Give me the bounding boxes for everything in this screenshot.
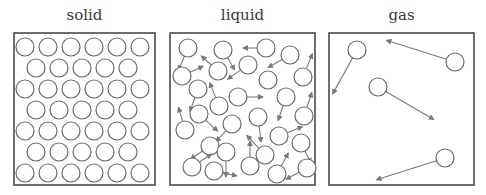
particle-circle xyxy=(85,164,103,182)
particle-circle xyxy=(108,80,126,98)
particle-circle xyxy=(62,80,80,98)
particle-circle xyxy=(27,143,45,161)
particle-circle xyxy=(16,164,34,182)
motion-arrow-icon xyxy=(286,172,299,179)
particle-circle xyxy=(209,62,227,80)
motion-arrow-icon xyxy=(247,135,259,148)
motion-arrow-icon xyxy=(386,40,446,59)
particle-circle xyxy=(348,41,366,59)
particle-circle xyxy=(210,97,228,115)
particle-circle xyxy=(108,164,126,182)
particle-circle xyxy=(183,158,201,176)
particle-circle xyxy=(50,101,68,119)
motion-arrow-icon xyxy=(278,106,283,121)
particle-circle xyxy=(257,39,275,57)
particle-circle xyxy=(176,121,194,139)
motion-arrow-icon xyxy=(287,127,302,133)
particle-circle xyxy=(73,59,91,77)
solid-panel xyxy=(14,33,155,185)
particle-circle xyxy=(131,122,149,140)
motion-arrow-icon xyxy=(306,54,312,69)
particle-circle xyxy=(249,108,267,126)
particle-circle xyxy=(201,137,219,155)
particle-circle xyxy=(436,149,454,167)
particle-circle xyxy=(229,88,247,106)
particle-circle xyxy=(85,80,103,98)
particle-circle xyxy=(39,164,57,182)
motion-arrow-icon xyxy=(268,59,282,67)
particle-circle xyxy=(27,101,45,119)
particle-circle xyxy=(39,80,57,98)
particle-circle xyxy=(27,59,45,77)
particle-circle xyxy=(50,59,68,77)
particle-circle xyxy=(16,38,34,56)
particle-circle xyxy=(108,122,126,140)
particle-circle xyxy=(446,53,464,71)
motion-arrow-icon xyxy=(223,173,237,176)
particle-circle xyxy=(119,59,137,77)
particle-circle xyxy=(108,38,126,56)
motion-arrow-icon xyxy=(307,92,312,107)
motion-arrow-icon xyxy=(376,161,436,180)
particle-circle xyxy=(85,38,103,56)
particle-circle xyxy=(73,143,91,161)
motion-arrow-icon xyxy=(206,120,218,131)
liquid-panel xyxy=(170,33,316,185)
particle-circle xyxy=(214,41,232,59)
particle-circle xyxy=(96,143,114,161)
particle-circle xyxy=(16,122,34,140)
gas-panel xyxy=(329,33,474,185)
particle-circle xyxy=(119,143,137,161)
particle-circle xyxy=(39,122,57,140)
states-of-matter-diagram xyxy=(0,0,486,195)
motion-arrow-icon xyxy=(228,70,241,79)
motion-arrow-icon xyxy=(190,66,203,72)
motion-arrow-icon xyxy=(386,92,434,120)
motion-arrow-icon xyxy=(259,126,261,142)
particle-circle xyxy=(62,164,80,182)
particle-circle xyxy=(241,157,259,175)
particle-circle xyxy=(268,165,286,183)
particle-circle xyxy=(223,115,241,133)
particle-circle xyxy=(292,134,310,152)
motion-arrow-icon xyxy=(281,153,288,166)
particle-circle xyxy=(131,164,149,182)
particle-circle xyxy=(119,101,137,119)
particle-circle xyxy=(294,68,312,86)
motion-arrow-icon xyxy=(179,107,183,121)
particle-circle xyxy=(131,80,149,98)
particle-circle xyxy=(259,71,277,89)
particle-circle xyxy=(190,105,208,123)
particle-circle xyxy=(50,143,68,161)
particle-circle xyxy=(62,122,80,140)
particle-circle xyxy=(85,122,103,140)
particle-circle xyxy=(256,146,274,164)
particle-circle xyxy=(96,59,114,77)
particle-circle xyxy=(217,143,235,161)
particle-circle xyxy=(96,101,114,119)
particle-circle xyxy=(205,162,223,180)
particle-circle xyxy=(131,38,149,56)
particle-circle xyxy=(239,56,257,74)
particle-circle xyxy=(73,101,91,119)
motion-arrow-icon xyxy=(228,58,235,70)
particle-circle xyxy=(39,38,57,56)
particle-circle xyxy=(189,80,207,98)
motion-arrow-icon xyxy=(333,58,353,94)
particle-circle xyxy=(281,46,299,64)
motion-arrow-icon xyxy=(201,56,211,65)
motion-arrow-icon xyxy=(199,154,211,162)
particle-circle xyxy=(270,127,288,145)
motion-arrow-icon xyxy=(210,83,216,98)
particle-circle xyxy=(295,107,313,125)
particle-circle xyxy=(16,80,34,98)
particle-circle xyxy=(277,88,295,106)
particle-circle xyxy=(179,39,197,57)
particle-circle xyxy=(369,78,387,96)
particle-circle xyxy=(62,38,80,56)
particle-circle xyxy=(298,159,316,177)
particle-circle xyxy=(173,67,191,85)
